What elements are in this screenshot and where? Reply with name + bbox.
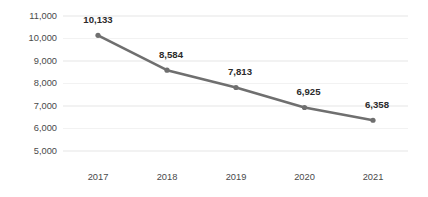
x-axis-tick-label: 2021	[363, 172, 384, 182]
data-point-marker	[164, 68, 169, 73]
x-axis-tick-label: 2018	[157, 172, 178, 182]
data-point-marker	[302, 105, 307, 110]
chart-canvas: 11,00010,0009,0008,0007,0006,0005,000 20…	[0, 0, 428, 197]
data-point-label: 10,133	[83, 14, 112, 25]
y-axis-tick-label: 6,000	[34, 123, 57, 133]
y-axis-tick-label: 9,000	[34, 56, 57, 66]
line-chart: 11,00010,0009,0008,0007,0006,0005,000 20…	[0, 0, 428, 197]
data-point-marker	[233, 85, 238, 90]
data-point-label: 6,358	[365, 99, 390, 110]
data-point-marker	[95, 33, 100, 38]
data-point-marker	[370, 118, 375, 123]
data-point-label: 7,813	[228, 66, 252, 77]
chart-background	[0, 0, 428, 197]
x-axis-tick-label: 2017	[88, 172, 109, 182]
data-point-label: 8,584	[159, 49, 184, 60]
x-axis-tick-label: 2020	[294, 172, 315, 182]
x-axis-tick-label: 2019	[226, 172, 247, 182]
data-point-label: 6,925	[296, 86, 321, 97]
y-axis-tick-label: 8,000	[34, 78, 57, 88]
y-axis-tick-label: 7,000	[34, 101, 57, 111]
y-axis-tick-label: 5,000	[34, 146, 57, 156]
y-axis-tick-label: 10,000	[29, 33, 57, 43]
y-axis-tick-label: 11,000	[29, 11, 57, 21]
